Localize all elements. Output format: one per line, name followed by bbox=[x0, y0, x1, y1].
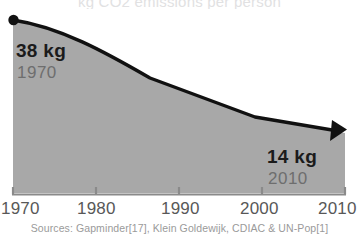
x-tick-label-2000: 2000 bbox=[240, 199, 279, 219]
end-value-label: 14 kg bbox=[267, 147, 317, 166]
x-tick-label-1970: 1970 bbox=[1, 199, 40, 219]
x-tick-label-1980: 1980 bbox=[77, 199, 116, 219]
chart-figure: kg CO2 emissions per person 38 kg 1970 1… bbox=[0, 0, 359, 240]
start-point-marker bbox=[8, 15, 18, 25]
start-year-label: 1970 bbox=[17, 64, 57, 81]
end-year-label: 2010 bbox=[268, 170, 308, 187]
x-tick-label-2010: 2010 bbox=[318, 199, 357, 219]
source-note: Sources: Gapminder[17], Klein Goldewijk,… bbox=[0, 222, 359, 234]
start-value-label: 38 kg bbox=[16, 41, 66, 60]
x-tick-label-1990: 1990 bbox=[161, 199, 200, 219]
